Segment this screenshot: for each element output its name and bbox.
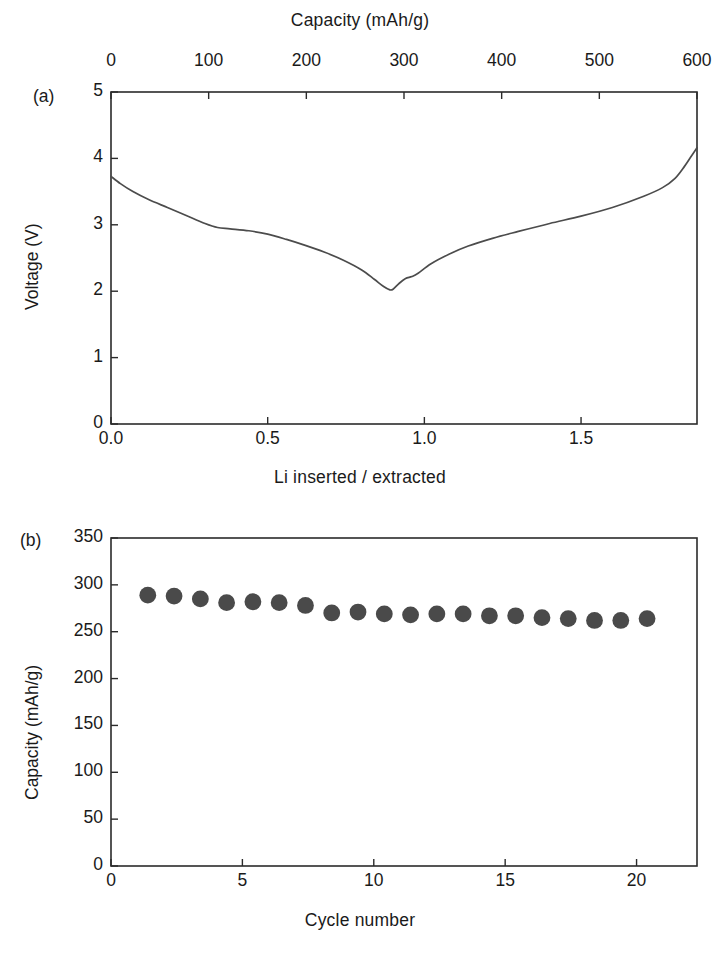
data-point-cycle-17.4 bbox=[560, 610, 577, 627]
data-point-cycle-20.4 bbox=[639, 610, 656, 627]
panel-b-x-axis-title: Cycle number bbox=[0, 910, 720, 931]
panel-a-plot bbox=[0, 0, 720, 500]
data-point-cycle-16.4 bbox=[534, 609, 551, 626]
panel-a-bottom-axis-title: Li inserted / extracted bbox=[0, 467, 720, 488]
data-point-cycle-18.4 bbox=[586, 612, 603, 629]
data-point-cycle-8.4 bbox=[323, 605, 340, 622]
panel-a-top-axis-title: Capacity (mAh/g) bbox=[0, 10, 720, 31]
panel-a-top-tick-600: 600 bbox=[637, 50, 720, 71]
panel-a-y-tick-4: 4 bbox=[0, 146, 103, 167]
data-point-cycle-15.4 bbox=[507, 607, 524, 624]
panel-b-x-tick-5: 5 bbox=[182, 870, 302, 891]
panel-b-y-tick-0: 0 bbox=[0, 854, 103, 875]
panel-a-bottom-tick-1: 1.0 bbox=[364, 428, 484, 449]
panel-a-voltage-curve bbox=[111, 148, 697, 290]
panel-b-x-tick-10: 10 bbox=[314, 870, 434, 891]
panel-b-y-tick-150: 150 bbox=[0, 713, 103, 734]
panel-b-y-tick-350: 350 bbox=[0, 526, 103, 547]
panel-b-y-tick-200: 200 bbox=[0, 667, 103, 688]
data-point-cycle-1.4 bbox=[139, 587, 156, 604]
panel-a: Capacity (mAh/g) (a) Voltage (V) Li inse… bbox=[0, 0, 720, 500]
data-point-cycle-10.4 bbox=[376, 606, 393, 623]
data-point-cycle-7.4 bbox=[297, 597, 314, 614]
panel-b-y-tick-250: 250 bbox=[0, 620, 103, 641]
data-point-cycle-4.4 bbox=[218, 594, 235, 611]
panel-b-y-tick-100: 100 bbox=[0, 760, 103, 781]
panel-a-bottom-tick-0.5: 0.5 bbox=[208, 428, 328, 449]
panel-b-ticks bbox=[111, 538, 637, 866]
panel-a-y-tick-1: 1 bbox=[0, 346, 103, 367]
panel-b-data-markers bbox=[139, 587, 655, 629]
data-point-cycle-2.4 bbox=[166, 588, 183, 605]
data-point-cycle-11.4 bbox=[402, 606, 419, 623]
panel-a-ticks bbox=[111, 92, 697, 424]
data-point-cycle-12.4 bbox=[428, 606, 445, 623]
data-point-cycle-13.4 bbox=[455, 606, 472, 623]
data-point-cycle-6.4 bbox=[271, 594, 288, 611]
panel-b-x-tick-20: 20 bbox=[577, 870, 697, 891]
figure-container: Capacity (mAh/g) (a) Voltage (V) Li inse… bbox=[0, 0, 720, 958]
data-point-cycle-14.4 bbox=[481, 607, 498, 624]
panel-a-y-tick-5: 5 bbox=[0, 80, 103, 101]
panel-a-y-tick-2: 2 bbox=[0, 279, 103, 300]
data-point-cycle-9.4 bbox=[350, 604, 367, 621]
data-point-cycle-3.4 bbox=[192, 591, 209, 608]
panel-b-y-tick-300: 300 bbox=[0, 573, 103, 594]
panel-a-y-tick-0: 0 bbox=[0, 412, 103, 433]
data-point-cycle-5.4 bbox=[245, 593, 262, 610]
panel-a-y-tick-3: 3 bbox=[0, 213, 103, 234]
panel-a-bottom-tick-1.5: 1.5 bbox=[521, 428, 641, 449]
panel-b: (b) Capacity (mAh/g) Cycle number 051015… bbox=[0, 500, 720, 958]
data-point-cycle-19.4 bbox=[612, 612, 629, 629]
panel-b-x-tick-15: 15 bbox=[445, 870, 565, 891]
panel-b-y-tick-50: 50 bbox=[0, 807, 103, 828]
